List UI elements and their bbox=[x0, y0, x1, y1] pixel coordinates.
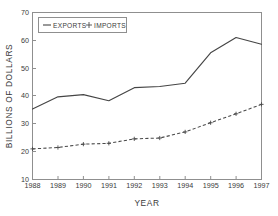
chart-container: 10 20 30 40 50 60 70 1988 1989 bbox=[0, 0, 278, 216]
y-tick-label-50: 50 bbox=[21, 64, 29, 73]
y-tick-label-60: 60 bbox=[21, 36, 29, 45]
legend: EXPORTS IMPORTS bbox=[39, 18, 127, 33]
legend-label-exports: EXPORTS bbox=[53, 22, 87, 29]
x-tick-label-1990: 1990 bbox=[75, 181, 91, 190]
x-tick-label-1988: 1988 bbox=[25, 181, 41, 190]
y-tick-label-70: 70 bbox=[21, 8, 29, 17]
y-tick-label-40: 40 bbox=[21, 91, 29, 100]
x-tick-label-1991: 1991 bbox=[101, 181, 117, 190]
x-tick-label-1995: 1995 bbox=[203, 181, 219, 190]
line-chart-figure: 10 20 30 40 50 60 70 1988 1989 bbox=[0, 0, 278, 216]
legend-label-imports: IMPORTS bbox=[94, 22, 126, 29]
x-tick-label-1993: 1993 bbox=[152, 181, 168, 190]
x-tick-label-1996: 1996 bbox=[228, 181, 244, 190]
y-tick-label-30: 30 bbox=[21, 119, 29, 128]
y-tick-label-20: 20 bbox=[21, 147, 29, 156]
y-axis-title: BILLIONS OF DOLLARS bbox=[4, 44, 14, 149]
x-tick-label-1989: 1989 bbox=[50, 181, 66, 190]
x-tick-label-1997: 1997 bbox=[254, 181, 270, 190]
x-tick-label-1992: 1992 bbox=[126, 181, 142, 190]
x-tick-label-1994: 1994 bbox=[177, 181, 193, 190]
x-axis-title: YEAR bbox=[134, 198, 159, 208]
